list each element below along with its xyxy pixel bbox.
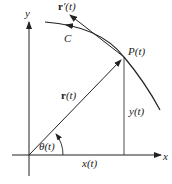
x-axis-label: x [162,150,168,162]
derivative-label: r′(t) [58,0,76,13]
tangent-vector [70,15,124,57]
curve-label: C [64,32,72,44]
point-label: P(t) [127,45,145,58]
y-axis-label: y [24,7,30,19]
angle-arc [56,134,63,155]
angle-label: θ(t) [39,140,55,153]
curve-direction-arrow [66,25,72,26]
position-vector-label: r(t) [61,89,77,102]
parametric-curve-diagram: y x r′(t) C P(t) r(t) y(t) x(t) θ(t) [0,0,172,184]
y-component-label: y(t) [128,105,145,118]
x-component-label: x(t) [81,157,98,170]
